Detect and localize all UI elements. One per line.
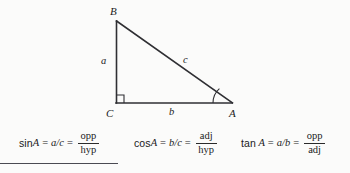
side-label-c: c xyxy=(183,55,188,66)
formula-tangent-fraction: opp adj xyxy=(304,130,325,156)
formula-tangent-equals-2: = xyxy=(293,138,299,149)
formula-sine-numerator: opp xyxy=(79,130,97,142)
right-triangle-figure: B C A a b c xyxy=(0,0,350,128)
trig-formula-row: sin A = a/c = opp hyp cos A = b/c = adj … xyxy=(0,126,350,160)
formula-cosine-ratio: b/c xyxy=(169,138,182,149)
formula-tangent-ratio: a/b xyxy=(277,138,290,149)
formula-cosine-fraction: adj hyp xyxy=(196,130,217,156)
triangle-hypotenuse-c xyxy=(117,21,233,103)
formula-cosine-denominator: hyp xyxy=(197,144,215,156)
formula-tangent-numerator: opp xyxy=(306,130,324,142)
formula-cosine-function: cos xyxy=(134,138,151,149)
diagram-canvas: B C A a b c sin A = a/c = opp hyp cos A … xyxy=(0,0,350,173)
formula-cosine: cos A = b/c = adj hyp xyxy=(134,126,217,160)
bottom-divider xyxy=(0,163,118,164)
formula-tangent-denominator: adj xyxy=(307,144,322,156)
formula-cosine-equals-2: = xyxy=(185,138,191,149)
formula-sine-function: sin xyxy=(19,138,33,149)
vertex-label-c: C xyxy=(106,108,113,119)
vertex-label-a: A xyxy=(229,108,236,119)
formula-tangent-angle: A xyxy=(258,138,264,149)
formula-sine-equals-2: = xyxy=(67,138,73,149)
formula-sine-equals-1: = xyxy=(42,138,48,149)
formula-tangent-equals-1: = xyxy=(268,138,274,149)
formula-tangent: tan A = a/b = opp adj xyxy=(241,126,325,160)
formula-sine-fraction: opp hyp xyxy=(78,130,99,156)
triangle-svg xyxy=(0,0,350,128)
formula-cosine-numerator: adj xyxy=(199,130,214,142)
formula-cosine-angle: A xyxy=(151,138,157,149)
formula-cosine-equals-1: = xyxy=(160,138,166,149)
formula-sine: sin A = a/c = opp hyp xyxy=(19,126,99,160)
side-label-a: a xyxy=(101,56,106,67)
formula-sine-angle: A xyxy=(33,138,39,149)
side-label-b: b xyxy=(169,107,174,118)
vertex-label-b: B xyxy=(110,6,117,17)
formula-tangent-function: tan xyxy=(241,138,256,149)
formula-sine-ratio: a/c xyxy=(51,138,64,149)
formula-sine-denominator: hyp xyxy=(79,144,97,156)
